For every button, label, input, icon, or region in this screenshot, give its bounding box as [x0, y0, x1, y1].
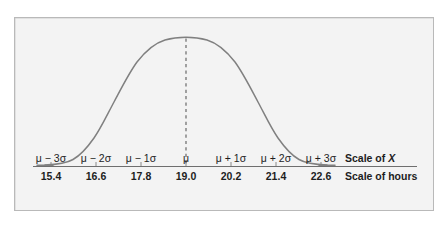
x-tick-label-2: μ − 1σ [126, 150, 156, 166]
x-tick-label-1: μ − 2σ [81, 150, 111, 166]
scale-of-x-prefix: Scale of [345, 152, 388, 164]
hours-label-row: 15.4 16.6 17.8 19.0 20.2 21.4 22.6 Scale… [15, 168, 435, 184]
sigma-label-row: μ − 3σ μ − 2σ μ − 1σ μ μ + 1σ μ + 2σ μ +… [15, 150, 435, 166]
x-tick-value-5: 21.4 [266, 168, 286, 184]
scale-of-x-caption: Scale of X [345, 150, 395, 166]
x-tick-value-2: 17.8 [131, 168, 151, 184]
x-tick-value-1: 16.6 [86, 168, 106, 184]
x-tick-value-6: 22.6 [311, 168, 331, 184]
normal-curve [45, 37, 327, 165]
x-tick-value-4: 20.2 [221, 168, 241, 184]
x-tick-label-4: μ + 1σ [216, 150, 246, 166]
x-tick-label-0: μ − 3σ [36, 150, 66, 166]
x-tick-value-3: 19.0 [176, 168, 196, 184]
figure-panel: μ − 3σ μ − 2σ μ − 1σ μ μ + 1σ μ + 2σ μ +… [14, 17, 434, 211]
x-tick-label-5: μ + 2σ [261, 150, 291, 166]
x-tick-label-3: μ [183, 150, 189, 166]
x-tick-label-6: μ + 3σ [306, 150, 336, 166]
scale-of-x-variable: X [388, 152, 395, 164]
x-tick-value-0: 15.4 [41, 168, 61, 184]
scale-of-hours-caption: Scale of hours [345, 168, 417, 184]
